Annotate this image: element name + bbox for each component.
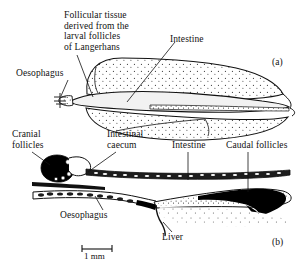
label-intestinal-caecum: Intestinal caecum	[107, 129, 143, 150]
anatomical-figure: Follicular tissue derived from the larva…	[0, 0, 306, 273]
leader-intestinal-caecum	[88, 152, 116, 172]
panel-b-illustration	[32, 152, 291, 236]
panel-b-cranial-base-bar	[32, 182, 105, 190]
leader-oesophagus-a	[61, 80, 68, 96]
panel-a-illustration	[54, 42, 295, 140]
panel-tag-a: (a)	[272, 57, 283, 67]
label-caudal-follicles: Caudal follicles	[226, 140, 288, 151]
label-follicular-tissue: Follicular tissue derived from the larva…	[64, 10, 129, 52]
label-oesophagus-panel-a: Oesophagus	[16, 68, 63, 79]
label-intestine-panel-a: Intestine	[170, 34, 204, 45]
label-oesophagus-panel-b: Oesophagus	[60, 210, 107, 221]
panel-b-follicle-lobule	[54, 177, 58, 181]
panel-tag-b: (b)	[272, 237, 283, 247]
figure-illustration	[0, 0, 306, 273]
label-liver: Liver	[162, 232, 183, 243]
label-intestine-panel-b: Intestine	[172, 140, 206, 151]
panel-b-follicle-lobule	[61, 176, 65, 180]
label-cranial-follicles: Cranial follicles	[12, 129, 44, 150]
scale-bar-label: 1 mm	[84, 251, 105, 261]
